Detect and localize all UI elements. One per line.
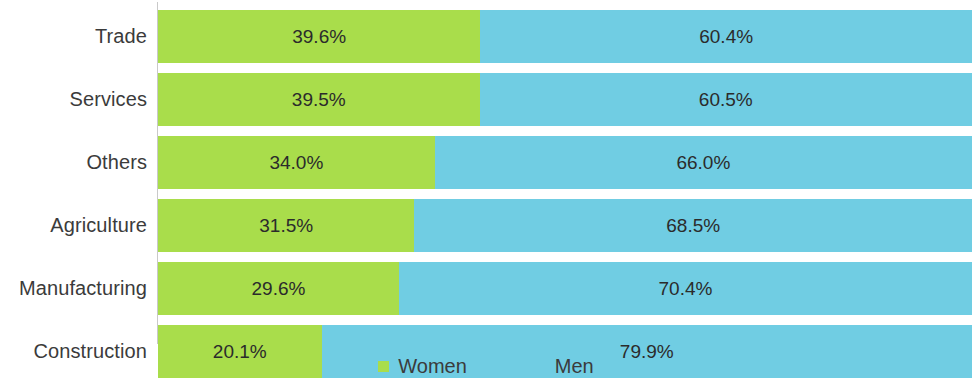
bar-track: 34.0%66.0% [158,136,972,189]
category-label: Agriculture [0,199,147,252]
bar-row: Manufacturing29.6%70.4% [0,262,972,315]
legend-label: Women [398,355,467,378]
bar-row: Others34.0%66.0% [0,136,972,189]
plot-area: Trade39.6%60.4%Services39.5%60.5%Others3… [0,0,972,348]
category-label: Trade [0,10,147,63]
bar-segment-men[interactable]: 68.5% [414,199,972,252]
bar-segment-women[interactable]: 34.0% [158,136,435,189]
bar-row: Services39.5%60.5% [0,73,972,126]
stacked-bar-chart: Trade39.6%60.4%Services39.5%60.5%Others3… [0,0,972,381]
bar-segment-men[interactable]: 70.4% [399,262,972,315]
square-swatch-green-icon [378,361,389,372]
bar-segment-women[interactable]: 39.6% [158,10,480,63]
category-label: Manufacturing [0,262,147,315]
bar-segment-men[interactable]: 60.4% [480,10,972,63]
bar-track: 31.5%68.5% [158,199,972,252]
bar-segment-women[interactable]: 29.6% [158,262,399,315]
bar-row: Agriculture31.5%68.5% [0,199,972,252]
bar-track: 39.6%60.4% [158,10,972,63]
category-label: Services [0,73,147,126]
category-label: Others [0,136,147,189]
chart-legend: WomenMen [0,352,972,381]
bar-segment-men[interactable]: 60.5% [480,73,972,126]
square-swatch-blue-icon [535,361,546,372]
legend-label: Men [555,355,594,378]
bar-segment-women[interactable]: 31.5% [158,199,414,252]
bar-segment-women[interactable]: 39.5% [158,73,480,126]
bar-track: 29.6%70.4% [158,262,972,315]
legend-item-men[interactable]: Men [535,355,594,378]
legend-item-women[interactable]: Women [378,355,467,378]
bar-segment-men[interactable]: 66.0% [435,136,972,189]
bar-track: 39.5%60.5% [158,73,972,126]
bar-row: Trade39.6%60.4% [0,10,972,63]
